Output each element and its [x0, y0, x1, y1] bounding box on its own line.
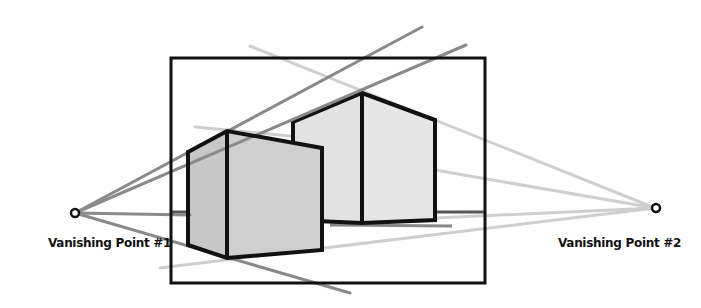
near-box [188, 131, 322, 258]
vanishing-point-2-marker [652, 204, 660, 212]
perspective-diagram [0, 0, 701, 308]
vanishing-point-1-marker [71, 209, 79, 217]
vanishing-point-1-label: Vanishing Point #1 [48, 236, 171, 250]
vanishing-point-2-label: Vanishing Point #2 [558, 236, 681, 250]
